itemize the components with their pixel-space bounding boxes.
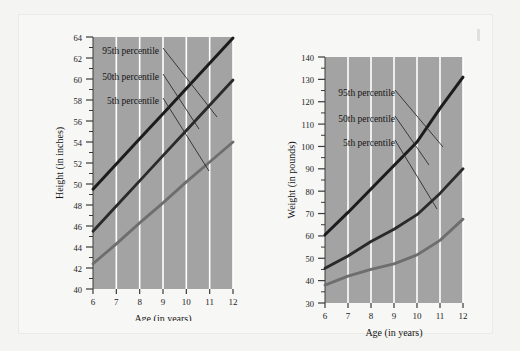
y-tick-label: 62: [74, 54, 83, 64]
y-tick-label: 90: [306, 164, 315, 174]
weight-chart: 3040506070809010011012013014067891011129…: [267, 41, 497, 341]
x-tick-label: 9: [392, 311, 397, 321]
annotation-label: 5th percentile: [343, 138, 395, 148]
x-tick-label: 12: [459, 311, 468, 321]
y-tick-label: 52: [74, 159, 83, 169]
y-tick-label: 42: [74, 264, 83, 274]
x-tick-label: 7: [114, 297, 119, 307]
x-tick-label: 9: [161, 297, 166, 307]
y-tick-label: 40: [306, 276, 315, 286]
annotation-label: 50th percentile: [338, 114, 395, 124]
annotation-label: 95th percentile: [102, 46, 159, 56]
y-tick-label: 60: [306, 231, 315, 241]
y-tick-label: 30: [306, 299, 315, 309]
y-tick-label: 100: [301, 142, 314, 152]
y-tick-label: 46: [74, 222, 83, 232]
x-axis-title: Age (in years): [365, 327, 422, 339]
x-tick-label: 8: [137, 297, 142, 307]
annotation-label: 5th percentile: [107, 96, 159, 106]
x-tick-label: 7: [346, 311, 351, 321]
x-tick-label: 11: [436, 311, 445, 321]
y-tick-label: 110: [302, 120, 314, 130]
y-tick-label: 50: [306, 254, 315, 264]
y-tick-label: 40: [74, 285, 83, 295]
y-tick-label: 120: [301, 97, 314, 107]
y-tick-label: 70: [306, 209, 315, 219]
y-tick-label: 60: [74, 75, 83, 85]
height-chart-svg: 40424446485052545658606264678910111295th…: [41, 21, 251, 321]
figure-page: 40424446485052545658606264678910111295th…: [0, 0, 520, 351]
y-tick-label: 56: [74, 117, 83, 127]
y-tick-label: 130: [301, 75, 314, 85]
x-tick-label: 10: [413, 311, 423, 321]
y-tick-label: 50: [74, 180, 83, 190]
y-tick-label: 140: [301, 53, 314, 63]
x-axis-title: Age (in years): [134, 313, 191, 321]
figure-frame: 40424446485052545658606264678910111295th…: [18, 14, 493, 334]
x-tick-label: 12: [229, 297, 238, 307]
x-tick-label: 10: [182, 297, 192, 307]
x-tick-label: 11: [205, 297, 214, 307]
page-edge-mark: [477, 29, 480, 41]
height-chart: 40424446485052545658606264678910111295th…: [41, 21, 251, 321]
x-tick-label: 8: [369, 311, 374, 321]
x-tick-label: 6: [91, 297, 96, 307]
y-tick-label: 48: [74, 201, 83, 211]
y-tick-label: 80: [306, 187, 315, 197]
y-tick-label: 54: [74, 138, 83, 148]
annotation-label: 95th percentile: [338, 88, 395, 98]
y-tick-label: 44: [74, 243, 83, 253]
y-axis-title: Height (in inches): [54, 127, 66, 199]
weight-chart-svg: 3040506070809010011012013014067891011129…: [267, 41, 497, 341]
y-axis-title: Weight (in pounds): [286, 142, 298, 219]
y-tick-label: 64: [74, 33, 83, 43]
annotation-label: 50th percentile: [102, 72, 159, 82]
y-tick-label: 58: [74, 96, 83, 106]
x-tick-label: 6: [323, 311, 328, 321]
